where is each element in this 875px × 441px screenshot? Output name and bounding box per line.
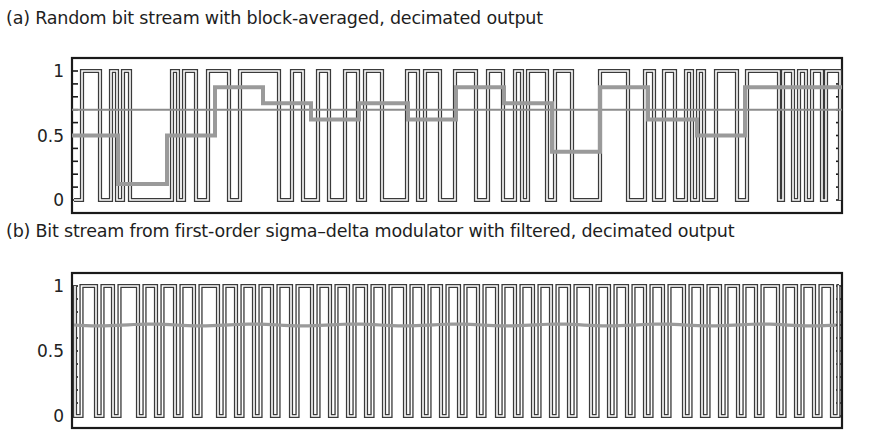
- panel-a-plot: 10.50: [37, 58, 842, 213]
- y-tick-label: 1: [53, 276, 64, 296]
- y-tick-label: 0.5: [37, 126, 64, 146]
- filtered-output-line: [74, 324, 836, 326]
- panel-b-plot: 10.50: [37, 273, 842, 428]
- sigma-delta-bitstream-outer: [75, 286, 839, 416]
- y-tick-label: 0: [53, 190, 64, 210]
- y-tick-label: 0: [53, 406, 64, 426]
- y-tick-label: 0.5: [37, 341, 64, 361]
- y-tick-label: 1: [53, 61, 64, 81]
- chart-canvas: 10.50 10.50: [0, 0, 875, 441]
